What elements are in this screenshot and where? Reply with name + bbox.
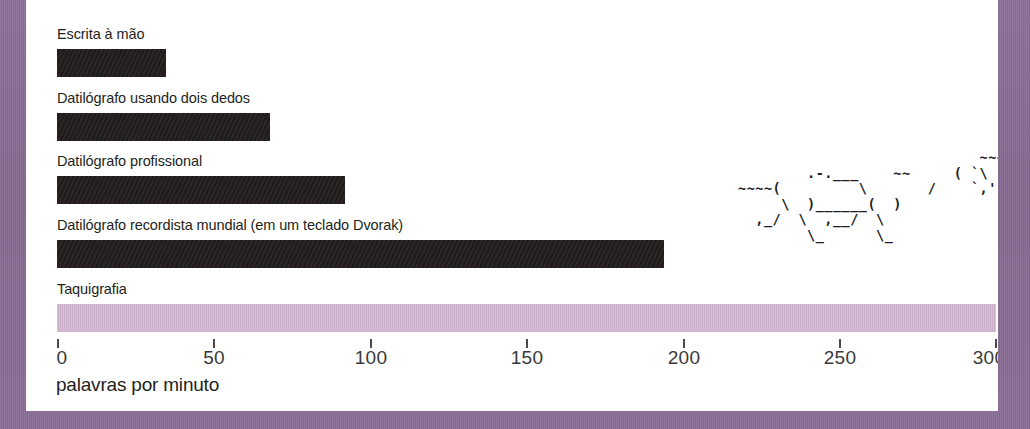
x-axis-tick-label: 0 — [57, 347, 68, 369]
bar-taquigrafia — [57, 304, 996, 332]
x-axis-tick-label: 300 — [973, 347, 998, 369]
x-axis-tick-label: 150 — [511, 347, 544, 369]
bar-label: Taquigrafia — [57, 281, 127, 297]
x-axis-tick-label: 50 — [203, 347, 225, 369]
bar-datilografo-dois-dedos — [57, 113, 270, 141]
bar-label: Escrita à mão — [57, 26, 144, 42]
bar-datilografo-profissional — [57, 176, 345, 204]
bar-label: Datilógrafo usando dois dedos — [57, 90, 250, 106]
bar-label: Datilógrafo recordista mundial (em um te… — [57, 217, 403, 233]
horse-ascii-art: ~~~ .-.___ ~~ ( `\ ~~~~( \ / `,' \ )____… — [738, 150, 998, 243]
bar-datilografo-recordista — [57, 240, 664, 268]
x-axis-tick-label: 100 — [355, 347, 388, 369]
bar-label: Datilógrafo profissional — [57, 153, 202, 169]
chart-sheet: Escrita à mão Datilógrafo usando dois de… — [26, 0, 998, 411]
plot-area: Escrita à mão Datilógrafo usando dois de… — [26, 0, 998, 411]
x-axis-title: palavras por minuto — [56, 374, 219, 396]
chart-page: Escrita à mão Datilógrafo usando dois de… — [0, 0, 1030, 429]
x-axis-tick-label: 250 — [824, 347, 857, 369]
x-axis-tick-label: 200 — [668, 347, 701, 369]
bar-escrita-a-mao — [57, 49, 166, 77]
